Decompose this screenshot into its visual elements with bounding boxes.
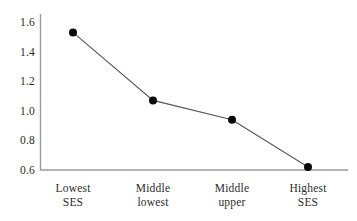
- y-tick-label-6: 0.6: [5, 164, 35, 176]
- data-point-marker: [228, 116, 236, 124]
- y-tick-label-5: 0.8: [5, 134, 35, 146]
- data-point-marker: [149, 96, 157, 104]
- x-tick-label-highest-ses: Highest SES: [265, 182, 351, 209]
- y-tick-label-4: 1.0: [5, 105, 35, 117]
- y-tick-label-1: 1.6: [5, 16, 35, 28]
- data-point-marker: [304, 163, 312, 171]
- x-tick-line-2: lowest: [110, 196, 196, 210]
- x-tick-label-lowest-ses: Lowest SES: [30, 182, 116, 209]
- x-tick-line-1: Middle: [189, 182, 275, 196]
- x-tick-line-1: Middle: [110, 182, 196, 196]
- x-tick-label-middle-upper: Middle upper: [189, 182, 275, 209]
- data-point-marker: [69, 28, 77, 36]
- x-tick-label-middle-lowest: Middle lowest: [110, 182, 196, 209]
- x-tick-line-1: Highest: [265, 182, 351, 196]
- x-tick-line-1: Lowest: [30, 182, 116, 196]
- x-tick-line-2: SES: [265, 196, 351, 210]
- x-tick-line-2: upper: [189, 196, 275, 210]
- y-tick-label-3: 1.2: [5, 75, 35, 87]
- ses-line-chart: 1.6 1.4 1.2 1.0 0.8 0.6 Lowest SES Middl…: [0, 0, 357, 221]
- x-tick-line-2: SES: [30, 196, 116, 210]
- y-tick-label-2: 1.4: [5, 46, 35, 58]
